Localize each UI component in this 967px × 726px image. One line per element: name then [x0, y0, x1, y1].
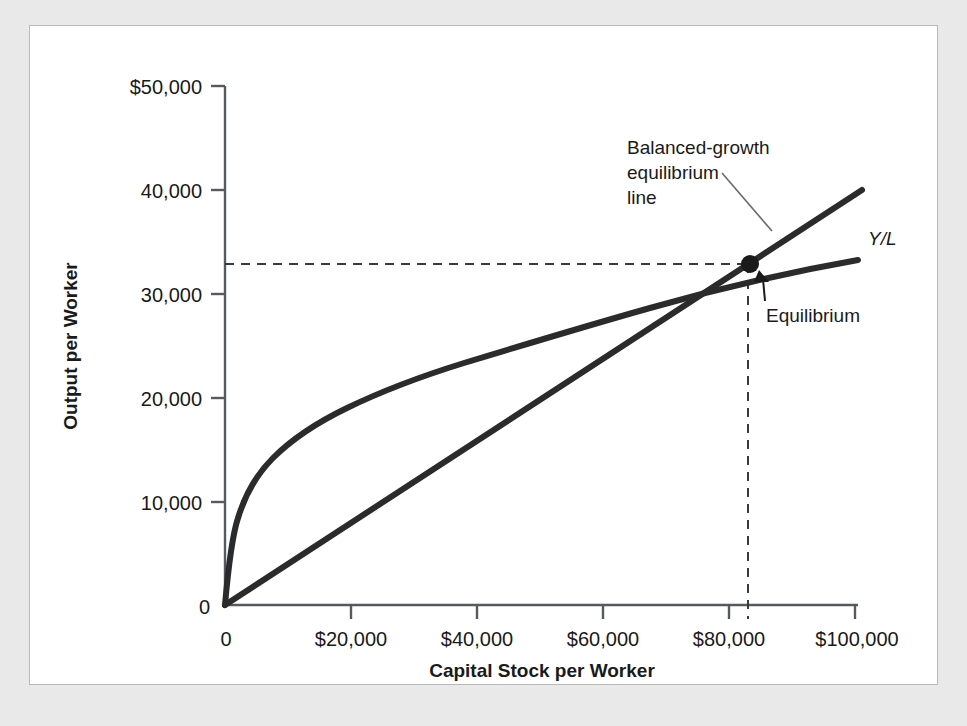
balanced-growth-label-line3: line — [627, 187, 657, 208]
output-per-worker-curve — [225, 260, 858, 605]
x-axis-title: Capital Stock per Worker — [429, 660, 655, 681]
figure-page: $50,000 40,000 30,000 20,000 10,000 0 0 … — [0, 0, 967, 726]
x-tick-label-0: 0 — [220, 628, 231, 650]
equilibrium-point-marker — [741, 255, 759, 273]
solow-growth-chart: $50,000 40,000 30,000 20,000 10,000 0 0 … — [30, 26, 937, 684]
y-axis-tick-labels: $50,000 40,000 30,000 20,000 10,000 0 — [130, 76, 210, 618]
x-axis-ticks — [351, 605, 855, 619]
x-tick-label-80000: $80,000 — [693, 628, 765, 650]
figure-panel: $50,000 40,000 30,000 20,000 10,000 0 0 … — [29, 25, 938, 685]
x-tick-label-100000: $100,000 — [815, 628, 898, 650]
equilibrium-label: Equilibrium — [766, 305, 860, 326]
axis-lines — [225, 86, 858, 605]
y-axis-ticks — [211, 86, 225, 502]
balanced-growth-label-line1: Balanced-growth — [627, 137, 770, 158]
y-axis-title: Output per Worker — [60, 262, 81, 430]
y-tick-label-20000: 20,000 — [141, 388, 202, 410]
balanced-growth-label-line2: equilibrium — [627, 162, 719, 183]
y-tick-label-10000: 10,000 — [141, 492, 202, 514]
yl-curve-label: Y/L — [868, 228, 897, 249]
balanced-growth-equilibrium-line — [225, 190, 862, 605]
y-tick-label-0: 0 — [199, 596, 210, 618]
balanced-growth-annotation: Balanced-growth equilibrium line — [627, 137, 772, 231]
x-tick-label-20000: $20,000 — [315, 628, 387, 650]
x-axis-tick-labels: 0 $20,000 $40,000 $60,000 $80,000 $100,0… — [220, 628, 898, 650]
x-tick-label-60000: $60,000 — [567, 628, 639, 650]
balanced-growth-leader-line — [722, 173, 772, 231]
x-tick-label-40000: $40,000 — [441, 628, 513, 650]
y-tick-label-40000: 40,000 — [141, 180, 202, 202]
equilibrium-arrow-shaft — [763, 279, 765, 301]
y-tick-label-50000: $50,000 — [130, 76, 202, 98]
y-tick-label-30000: 30,000 — [141, 284, 202, 306]
